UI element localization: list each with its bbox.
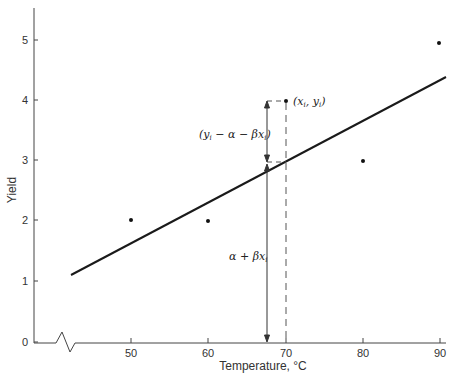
data-point [206,219,210,223]
y-tick-label: 2 [22,214,28,226]
y-tick-label: 5 [22,34,28,46]
fitted-value-annotation: α + βxi [229,250,267,264]
y-ticks [34,40,38,342]
x-tick-label: 90 [434,347,446,359]
fitted-value-arrow [265,164,270,342]
x-tick-labels: 50 60 70 80 90 [125,347,446,359]
data-points [129,41,441,223]
x-axis [34,332,446,352]
regression-line [71,77,446,275]
data-point [361,159,365,163]
scatter-chart: 0 1 2 3 4 5 50 60 70 80 90 Temperature, … [0,0,459,377]
data-point [129,218,133,222]
x-axis-title: Temperature, °C [219,359,307,373]
y-tick-label: 3 [22,154,28,166]
y-tick-label: 1 [22,275,28,287]
point-annotation: (xi, yi) [293,95,326,109]
x-tick-label: 70 [280,347,292,359]
y-tick-labels: 0 1 2 3 4 5 [22,34,28,348]
x-tick-label: 50 [125,347,137,359]
x-tick-label: 60 [202,347,214,359]
residual-annotation: (yi − α − βxi) [199,128,271,142]
data-point [284,99,288,103]
x-tick-label: 80 [357,347,369,359]
data-point [437,41,441,45]
y-axis-title: Yield [5,177,19,203]
y-tick-label: 0 [22,336,28,348]
y-tick-label: 4 [22,94,28,106]
x-ticks [131,338,440,343]
